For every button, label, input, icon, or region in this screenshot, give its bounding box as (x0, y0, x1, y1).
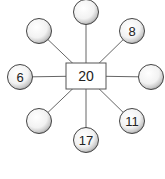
center-value: 20 (78, 68, 94, 84)
node-bottom-left (27, 109, 52, 134)
node-value: 11 (125, 114, 139, 129)
node-value: 6 (16, 70, 23, 85)
node-circle (27, 109, 52, 134)
node-circle (27, 19, 52, 44)
node-bottom: 17 (74, 128, 99, 153)
node-bottom-right: 11 (120, 109, 145, 134)
star-diagram: 861711 20 (0, 0, 165, 179)
node-right (139, 65, 164, 90)
node-circle (74, 0, 99, 25)
node-value: 8 (128, 24, 135, 39)
node-top-right: 8 (120, 19, 145, 44)
node-left: 6 (8, 65, 33, 90)
center-box: 20 (66, 63, 106, 89)
node-top (74, 0, 99, 25)
node-top-left (27, 19, 52, 44)
node-circle (139, 65, 164, 90)
node-value: 17 (79, 133, 93, 148)
